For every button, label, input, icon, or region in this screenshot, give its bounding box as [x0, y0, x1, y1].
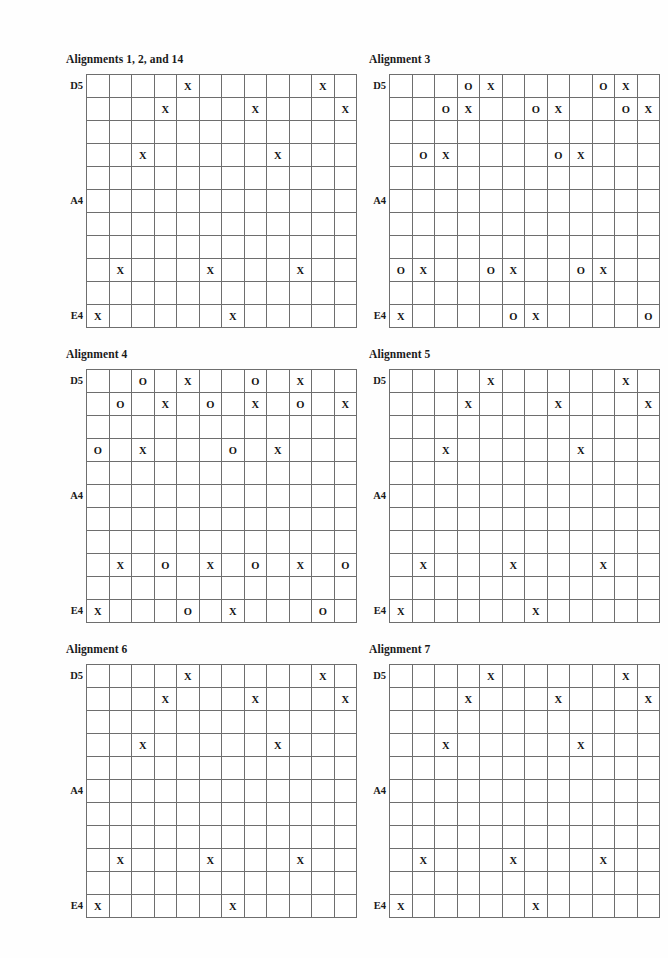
alignment-cell-marked[interactable]: O — [199, 393, 222, 416]
alignment-cell-empty[interactable] — [177, 190, 200, 213]
alignment-cell-empty[interactable] — [312, 577, 335, 600]
alignment-cell-empty[interactable] — [312, 757, 335, 780]
alignment-cell-empty[interactable] — [312, 236, 335, 259]
alignment-cell-empty[interactable] — [570, 531, 593, 554]
alignment-cell-marked[interactable]: O — [525, 98, 548, 121]
alignment-cell-empty[interactable] — [267, 370, 290, 393]
alignment-cell-empty[interactable] — [132, 416, 155, 439]
alignment-cell-empty[interactable] — [637, 849, 660, 872]
alignment-cell-empty[interactable] — [592, 167, 615, 190]
alignment-cell-empty[interactable] — [435, 121, 458, 144]
alignment-cell-empty[interactable] — [177, 711, 200, 734]
alignment-cell-empty[interactable] — [457, 711, 480, 734]
alignment-cell-empty[interactable] — [480, 688, 503, 711]
alignment-cell-empty[interactable] — [457, 665, 480, 688]
alignment-cell-empty[interactable] — [435, 167, 458, 190]
alignment-cell-empty[interactable] — [222, 577, 245, 600]
alignment-cell-empty[interactable] — [570, 826, 593, 849]
alignment-cell-empty[interactable] — [457, 282, 480, 305]
alignment-cell-empty[interactable] — [177, 462, 200, 485]
alignment-cell-empty[interactable] — [177, 872, 200, 895]
alignment-cell-marked[interactable]: X — [637, 98, 660, 121]
alignment-cell-empty[interactable] — [592, 780, 615, 803]
alignment-cell-empty[interactable] — [480, 757, 503, 780]
alignment-cell-empty[interactable] — [87, 75, 110, 98]
alignment-cell-empty[interactable] — [199, 439, 222, 462]
alignment-cell-marked[interactable]: X — [244, 393, 267, 416]
alignment-cell-empty[interactable] — [390, 121, 413, 144]
alignment-cell-empty[interactable] — [312, 144, 335, 167]
alignment-cell-empty[interactable] — [177, 780, 200, 803]
alignment-cell-empty[interactable] — [199, 711, 222, 734]
alignment-cell-empty[interactable] — [289, 75, 312, 98]
alignment-cell-empty[interactable] — [177, 393, 200, 416]
alignment-cell-empty[interactable] — [502, 734, 525, 757]
alignment-cell-empty[interactable] — [177, 144, 200, 167]
alignment-cell-empty[interactable] — [267, 190, 290, 213]
alignment-cell-empty[interactable] — [199, 485, 222, 508]
alignment-cell-empty[interactable] — [502, 780, 525, 803]
alignment-cell-empty[interactable] — [132, 577, 155, 600]
alignment-cell-empty[interactable] — [435, 531, 458, 554]
alignment-cell-empty[interactable] — [222, 665, 245, 688]
alignment-cell-empty[interactable] — [480, 895, 503, 918]
alignment-cell-empty[interactable] — [412, 600, 435, 623]
alignment-cell-empty[interactable] — [222, 190, 245, 213]
alignment-cell-marked[interactable]: X — [390, 600, 413, 623]
alignment-cell-empty[interactable] — [570, 600, 593, 623]
alignment-cell-empty[interactable] — [289, 757, 312, 780]
alignment-cell-empty[interactable] — [547, 757, 570, 780]
alignment-cell-empty[interactable] — [199, 75, 222, 98]
alignment-cell-empty[interactable] — [267, 98, 290, 121]
alignment-cell-empty[interactable] — [132, 849, 155, 872]
alignment-cell-empty[interactable] — [222, 872, 245, 895]
alignment-cell-empty[interactable] — [502, 121, 525, 144]
alignment-cell-empty[interactable] — [615, 577, 638, 600]
alignment-cell-empty[interactable] — [412, 531, 435, 554]
alignment-cell-empty[interactable] — [480, 826, 503, 849]
alignment-cell-empty[interactable] — [435, 416, 458, 439]
alignment-cell-empty[interactable] — [502, 462, 525, 485]
alignment-cell-empty[interactable] — [177, 282, 200, 305]
alignment-cell-empty[interactable] — [390, 872, 413, 895]
alignment-cell-empty[interactable] — [312, 439, 335, 462]
alignment-cell-empty[interactable] — [525, 688, 548, 711]
alignment-cell-empty[interactable] — [435, 393, 458, 416]
alignment-cell-empty[interactable] — [289, 577, 312, 600]
alignment-cell-empty[interactable] — [480, 190, 503, 213]
alignment-cell-empty[interactable] — [525, 554, 548, 577]
alignment-grid-5[interactable]: XXXXXXXXXXXX — [389, 664, 660, 918]
alignment-cell-empty[interactable] — [177, 508, 200, 531]
alignment-cell-empty[interactable] — [592, 370, 615, 393]
alignment-cell-empty[interactable] — [412, 826, 435, 849]
alignment-cell-empty[interactable] — [412, 167, 435, 190]
alignment-cell-marked[interactable]: X — [289, 849, 312, 872]
alignment-cell-empty[interactable] — [615, 734, 638, 757]
alignment-cell-empty[interactable] — [267, 554, 290, 577]
alignment-cell-empty[interactable] — [592, 757, 615, 780]
alignment-cell-empty[interactable] — [412, 190, 435, 213]
alignment-cell-marked[interactable]: X — [244, 98, 267, 121]
alignment-cell-empty[interactable] — [570, 213, 593, 236]
alignment-cell-empty[interactable] — [547, 167, 570, 190]
alignment-cell-empty[interactable] — [412, 780, 435, 803]
alignment-cell-empty[interactable] — [289, 121, 312, 144]
alignment-cell-empty[interactable] — [109, 236, 132, 259]
alignment-cell-empty[interactable] — [87, 144, 110, 167]
alignment-cell-marked[interactable]: X — [222, 305, 245, 328]
alignment-cell-empty[interactable] — [132, 98, 155, 121]
alignment-cell-empty[interactable] — [457, 121, 480, 144]
alignment-cell-empty[interactable] — [502, 98, 525, 121]
alignment-cell-empty[interactable] — [435, 282, 458, 305]
alignment-cell-empty[interactable] — [570, 98, 593, 121]
alignment-cell-empty[interactable] — [525, 803, 548, 826]
alignment-cell-empty[interactable] — [222, 144, 245, 167]
alignment-cell-empty[interactable] — [525, 508, 548, 531]
alignment-cell-empty[interactable] — [222, 711, 245, 734]
alignment-cell-empty[interactable] — [435, 872, 458, 895]
alignment-cell-empty[interactable] — [502, 600, 525, 623]
alignment-cell-empty[interactable] — [480, 439, 503, 462]
alignment-cell-marked[interactable]: X — [592, 849, 615, 872]
alignment-cell-marked[interactable]: X — [177, 75, 200, 98]
alignment-grid-4[interactable]: XXXXXXXXXXXX — [86, 664, 357, 918]
